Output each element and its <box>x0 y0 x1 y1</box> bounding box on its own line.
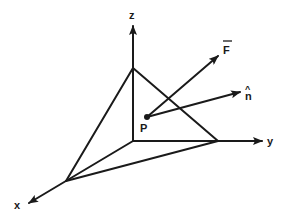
normal-label: n <box>245 90 252 102</box>
edge-apex-to-x <box>66 68 133 181</box>
tetrahedron-diagram: z y x P F ^ n <box>0 0 287 220</box>
x-axis <box>29 141 133 203</box>
point-p-label: P <box>140 122 147 134</box>
z-axis-label: z <box>129 9 135 21</box>
y-axis-label: y <box>267 135 274 147</box>
point-p-dot <box>144 114 150 120</box>
force-label: F <box>223 44 230 56</box>
x-axis-label: x <box>14 199 21 211</box>
edge-x-to-y <box>66 141 218 181</box>
